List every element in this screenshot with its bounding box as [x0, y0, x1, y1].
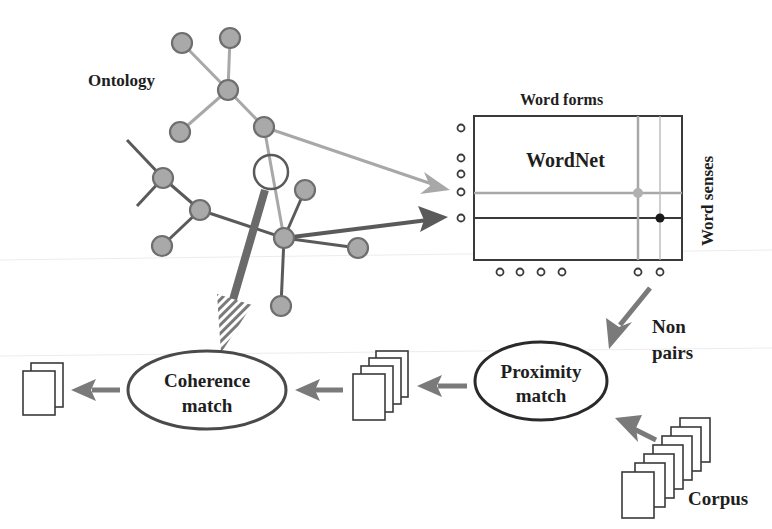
- proximity-output-arrow: [417, 375, 467, 397]
- sense-marker: [458, 155, 465, 162]
- non-pairs-arrow: [606, 288, 650, 349]
- ontology-node: [190, 200, 210, 220]
- ontology-node: [348, 238, 368, 258]
- coherence-match-node: Coherence match: [128, 351, 286, 429]
- ontology-node: [254, 117, 274, 137]
- form-marker: [497, 269, 504, 276]
- ontology-node: [218, 80, 238, 100]
- output-document-stack: [23, 363, 63, 415]
- ontology-node: [172, 33, 192, 53]
- coherence-output-arrow: [71, 379, 120, 401]
- sense-markers: [458, 125, 465, 222]
- scan-artifacts: [0, 250, 772, 356]
- sense-marker: [458, 125, 465, 132]
- form-marker: [559, 269, 566, 276]
- form-marker: [517, 269, 524, 276]
- pairs-label: pairs: [652, 342, 693, 363]
- ontology-node: [153, 168, 173, 188]
- wordnet-box: [474, 116, 682, 260]
- proximity-label-line2: match: [516, 385, 567, 406]
- proximity-match-node: Proximity match: [475, 342, 607, 420]
- coherence-label-line1: Coherence: [164, 370, 250, 391]
- wordnet-matrix: Word forms Word senses WordNet: [458, 91, 718, 276]
- ontology-node: [170, 122, 190, 142]
- proximity-label-line1: Proximity: [501, 361, 582, 382]
- light-intersection-dot: [633, 188, 643, 198]
- form-marker: [538, 269, 545, 276]
- sense-marker: [458, 215, 465, 222]
- coherence-label-line2: match: [182, 395, 233, 416]
- word-forms-label: Word forms: [520, 91, 603, 108]
- ontology-nodes: [152, 28, 368, 316]
- ontology-node: [271, 296, 291, 316]
- form-marker: [635, 269, 642, 276]
- light-mapping-arrow: [264, 127, 450, 194]
- ontology-node: [152, 236, 172, 256]
- word-senses-label: Word senses: [698, 155, 717, 246]
- coherence-input-arrow: [295, 379, 343, 401]
- intermediate-document-stack: [353, 351, 408, 420]
- corpus-arrow: [615, 415, 656, 442]
- form-marker: [657, 269, 664, 276]
- ontology-hub-node: [274, 228, 294, 248]
- sense-marker: [458, 189, 465, 196]
- ontology-label: Ontology: [88, 71, 156, 90]
- ontology-wordnet-diagram: Ontology Word forms Word senses WordNet: [0, 0, 772, 529]
- form-markers: [497, 269, 664, 276]
- corpus-label: Corpus: [688, 488, 748, 509]
- ontology-graph: Ontology: [88, 28, 450, 353]
- ontology-node: [295, 180, 315, 200]
- dark-intersection-dot: [656, 214, 665, 223]
- wordnet-label: WordNet: [526, 149, 605, 171]
- dark-mapping-arrow: [284, 206, 448, 238]
- concept-to-coherence-arrow: [217, 190, 265, 353]
- non-label: Non: [652, 316, 686, 337]
- ontology-node: [220, 28, 240, 48]
- sense-marker: [458, 171, 465, 178]
